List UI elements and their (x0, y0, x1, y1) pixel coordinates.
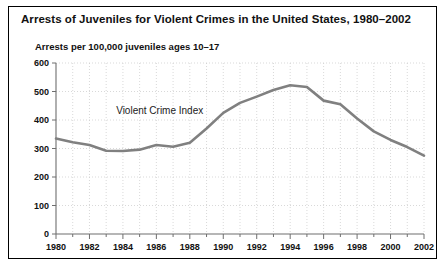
x-tick-label: 1982 (79, 242, 99, 252)
y-tick-label: 100 (34, 201, 49, 211)
y-tick-label: 300 (34, 144, 49, 154)
x-tick-label: 1992 (247, 242, 267, 252)
plot-area: 0100200300400500600 19801982198419861988… (0, 0, 446, 272)
chart-figure: Arrests of Juveniles for Violent Crimes … (0, 0, 446, 272)
x-tick-label: 2000 (381, 242, 401, 252)
x-tick-label: 1984 (113, 242, 133, 252)
x-tick-label: 1998 (347, 242, 367, 252)
x-tick-labels: 1980198219841986198819901992199419961998… (46, 242, 434, 252)
y-tick-label: 500 (34, 87, 49, 97)
y-tick-label: 200 (34, 172, 49, 182)
x-axis (56, 234, 424, 239)
y-tick-label: 400 (34, 115, 49, 125)
series-annotation-label: Violent Crime Index (116, 105, 203, 116)
x-tick-label: 1996 (314, 242, 334, 252)
gridlines (56, 63, 424, 234)
y-tick-labels: 0100200300400500600 (34, 58, 49, 239)
chart-svg: 0100200300400500600 19801982198419861988… (0, 0, 446, 272)
x-tick-label: 1994 (280, 242, 300, 252)
x-tick-label: 1980 (46, 242, 66, 252)
x-tick-label: 1990 (213, 242, 233, 252)
y-axis (52, 63, 56, 234)
x-tick-label: 1988 (180, 242, 200, 252)
series-annotation: Violent Crime Index (116, 105, 203, 116)
y-tick-label: 600 (34, 58, 49, 68)
y-tick-label: 0 (44, 229, 49, 239)
x-tick-label: 2002 (414, 242, 434, 252)
x-tick-label: 1986 (146, 242, 166, 252)
